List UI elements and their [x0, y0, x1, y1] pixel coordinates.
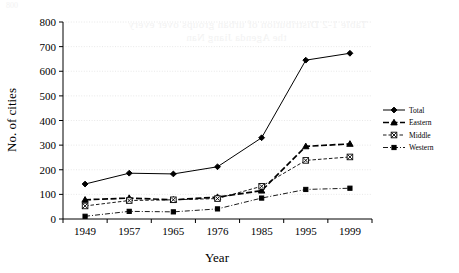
data-point-marker — [82, 181, 88, 187]
legend-item-total: Total — [383, 106, 424, 115]
data-series-group — [82, 50, 353, 218]
series-western — [83, 186, 352, 218]
data-point-marker — [259, 135, 265, 141]
x-axis-ticks-group: 1949195719651976198519951999 — [63, 219, 372, 237]
data-point-marker — [391, 132, 397, 138]
data-point-marker — [391, 107, 397, 113]
series-middle — [82, 154, 352, 209]
line-chart: 0100200300400500600700800 19491957196519… — [0, 0, 459, 273]
y-tick-label: 400 — [40, 115, 57, 127]
x-tick-label: 1957 — [118, 225, 141, 237]
x-axis-title: Year — [205, 250, 230, 265]
legend-item-middle: Middle — [383, 131, 431, 140]
data-point-marker — [303, 158, 309, 164]
chart-figure: 800 Table 1-2 Distribution of urban grou… — [0, 0, 459, 273]
y-tick-label: 0 — [51, 213, 57, 225]
y-tick-label: 800 — [40, 16, 57, 28]
data-point-marker — [392, 145, 396, 149]
data-point-marker — [215, 207, 219, 211]
y-tick-label: 200 — [40, 164, 57, 176]
y-tick-label: 600 — [40, 65, 57, 77]
series-line — [85, 188, 350, 216]
legend-label: Eastern — [409, 118, 432, 127]
data-point-marker — [304, 187, 308, 191]
legend-label: Western — [409, 143, 434, 152]
data-point-marker — [348, 186, 352, 190]
data-point-marker — [303, 57, 309, 63]
x-tick-label: 1965 — [162, 225, 185, 237]
data-point-marker — [171, 210, 175, 214]
legend-label: Total — [409, 106, 424, 115]
y-axis-ticks-group: 0100200300400500600700800 — [40, 16, 64, 225]
legend: TotalEasternMiddleWestern — [383, 106, 434, 153]
x-tick-label: 1949 — [74, 225, 97, 237]
data-point-marker — [170, 171, 176, 177]
data-point-marker — [83, 214, 87, 218]
series-line — [85, 144, 350, 200]
y-axis-title: No. of cities — [4, 88, 19, 152]
legend-label: Middle — [409, 131, 431, 140]
y-tick-label: 500 — [40, 90, 57, 102]
data-point-marker — [347, 50, 353, 56]
data-point-marker — [259, 183, 265, 189]
x-tick-label: 1995 — [295, 225, 318, 237]
y-tick-label: 300 — [40, 139, 57, 151]
data-point-marker — [82, 203, 88, 209]
series-eastern — [82, 141, 353, 202]
data-point-marker — [215, 196, 221, 202]
data-point-marker — [127, 209, 131, 213]
data-point-marker — [171, 197, 177, 203]
data-point-marker — [126, 198, 132, 204]
data-point-marker — [347, 154, 353, 160]
data-point-marker — [126, 170, 132, 176]
data-point-marker — [215, 164, 221, 170]
x-tick-label: 1999 — [339, 225, 362, 237]
series-total — [82, 50, 353, 187]
y-tick-label: 700 — [40, 41, 57, 53]
x-tick-label: 1976 — [207, 225, 230, 237]
x-tick-label: 1985 — [251, 225, 274, 237]
legend-item-western: Western — [383, 143, 434, 152]
data-point-marker — [260, 196, 264, 200]
legend-item-eastern: Eastern — [383, 118, 432, 127]
y-tick-label: 100 — [40, 188, 57, 200]
